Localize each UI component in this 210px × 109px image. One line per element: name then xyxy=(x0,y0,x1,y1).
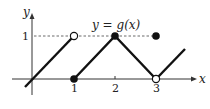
segment-2 xyxy=(74,36,154,79)
y-axis-arrow-icon xyxy=(30,13,35,19)
x-axis-arrow-icon xyxy=(191,77,197,82)
segment-3 xyxy=(159,49,186,77)
tick-label-x3: 3 xyxy=(153,82,160,95)
y-axis-label: y xyxy=(22,5,30,19)
tick-label-x1: 1 xyxy=(71,82,78,95)
closed-point-2-1 xyxy=(111,32,119,40)
x-axis-label: x xyxy=(199,72,206,86)
closed-point-3-1 xyxy=(152,32,160,40)
graph-canvas: y x 1 1 2 3 y = g(x) xyxy=(0,0,210,109)
open-point-1-1 xyxy=(70,32,77,39)
function-label: y = g(x) xyxy=(91,18,141,32)
tick-label-y1: 1 xyxy=(22,30,29,43)
tick-label-x2: 2 xyxy=(112,82,119,95)
